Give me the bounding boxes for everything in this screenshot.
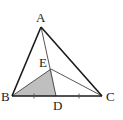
- label-e: E: [39, 55, 47, 70]
- label-b: B: [1, 89, 10, 104]
- segment-ec: [51, 69, 102, 96]
- label-d: D: [53, 98, 62, 113]
- label-a: A: [36, 10, 46, 25]
- triangle-diagram: A B C D E: [0, 0, 123, 120]
- label-c: C: [106, 89, 115, 104]
